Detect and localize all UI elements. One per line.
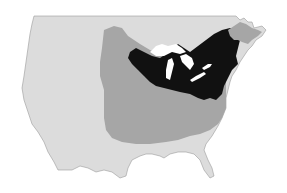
map-container	[0, 0, 287, 193]
north-america-map	[0, 0, 287, 193]
